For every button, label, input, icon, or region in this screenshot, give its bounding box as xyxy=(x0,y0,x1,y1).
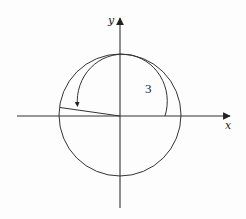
y-axis-label: y xyxy=(107,14,115,27)
angle-label: 3 xyxy=(145,81,152,96)
unit-circle-diagram: y x 3 xyxy=(0,0,246,219)
angle-arc xyxy=(77,54,167,116)
terminal-ray xyxy=(60,108,120,117)
x-axis-label: x xyxy=(225,119,232,132)
